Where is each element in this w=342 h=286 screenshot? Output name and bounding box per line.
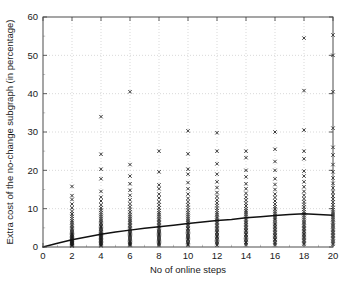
x-tick-label: 2 (69, 250, 74, 261)
scatter-point (244, 199, 247, 202)
scatter-points-layer (70, 33, 334, 248)
chart-figure: 024681012141618200102030405060No of onli… (0, 0, 342, 286)
x-tick-label: 4 (98, 250, 103, 261)
scatter-point (244, 202, 247, 205)
scatter-point (273, 202, 276, 205)
scatter-point (302, 174, 305, 177)
scatter-point (273, 160, 276, 163)
scatter-point (99, 190, 102, 193)
y-tick-label: 60 (27, 11, 38, 22)
scatter-point (157, 192, 160, 195)
scatter-point (273, 148, 276, 151)
x-tick-label: 10 (183, 250, 194, 261)
y-tick-label: 0 (33, 241, 38, 252)
scatter-point (302, 169, 305, 172)
scatter-point (273, 169, 276, 172)
y-tick-label: 10 (27, 203, 38, 214)
scatter-point (128, 198, 131, 201)
scatter-plot-canvas: 024681012141618200102030405060No of onli… (0, 0, 342, 286)
axis-labels-layer: 024681012141618200102030405060No of onli… (4, 11, 338, 275)
scatter-point (99, 115, 102, 118)
scatter-point (302, 190, 305, 193)
x-tick-label: 0 (40, 250, 45, 261)
y-tick-label: 20 (27, 165, 38, 176)
x-tick-label: 20 (328, 250, 339, 261)
scatter-point (128, 174, 131, 177)
scatter-point (99, 199, 102, 202)
scatter-point (157, 196, 160, 199)
y-tick-label: 50 (27, 50, 38, 61)
scatter-point (273, 196, 276, 199)
scatter-point (215, 201, 218, 204)
scatter-point (273, 192, 276, 195)
scatter-point (186, 187, 189, 190)
scatter-point (302, 157, 305, 160)
scatter-point (215, 180, 218, 183)
x-tick-label: 18 (299, 250, 310, 261)
scatter-point (157, 187, 160, 190)
scatter-point (128, 205, 131, 208)
y-tick-label: 40 (27, 88, 38, 99)
scatter-point (186, 181, 189, 184)
scatter-point (215, 162, 218, 165)
scatter-point (186, 192, 189, 195)
scatter-point (215, 198, 218, 201)
scatter-point (186, 172, 189, 175)
scatter-point (215, 172, 218, 175)
x-tick-label: 16 (270, 250, 281, 261)
scatter-point (302, 180, 305, 183)
x-tick-label: 6 (127, 250, 132, 261)
scatter-point (128, 202, 131, 205)
scatter-point (70, 202, 73, 205)
scatter-point (273, 199, 276, 202)
y-tick-label: 30 (27, 126, 38, 137)
x-tick-label: 14 (241, 250, 252, 261)
scatter-point (244, 187, 247, 190)
x-tick-label: 8 (156, 250, 161, 261)
scatter-point (302, 36, 305, 39)
scatter-point (128, 163, 131, 166)
scatter-point (157, 183, 160, 186)
x-tick-label: 12 (212, 250, 223, 261)
y-axis-title: Extra cost of the no-change subgraph (in… (4, 20, 15, 245)
scatter-point (244, 195, 247, 198)
x-axis-title: No of online steps (150, 264, 226, 275)
scatter-point (273, 130, 276, 133)
scatter-point (244, 175, 247, 178)
scatter-point (99, 195, 102, 198)
